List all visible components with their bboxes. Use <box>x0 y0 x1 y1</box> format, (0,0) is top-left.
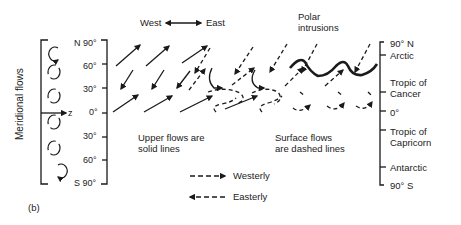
meridional-bracket <box>41 40 48 184</box>
polar-intrusion-front <box>290 60 377 76</box>
circulation-diagram <box>0 0 461 225</box>
latitude-axis <box>101 40 107 184</box>
zones-axis <box>380 42 384 185</box>
